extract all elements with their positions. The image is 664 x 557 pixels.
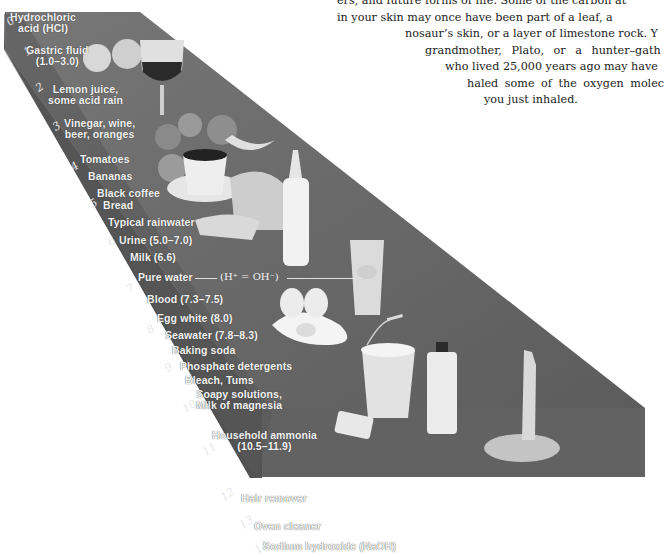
label-urine: Urine (5.0–7.0) (119, 235, 192, 246)
label-phosphate-detergents: Phosphate detergents (180, 361, 292, 372)
body-text-line: grandmother, Plato, or a hunter–gath (311, 43, 651, 60)
label-baking-soda: Baking soda (172, 345, 236, 356)
label-bleach-tums: Bleach, Tums (185, 375, 254, 386)
label-bread: Bread (103, 200, 133, 211)
label-blood: Blood (7.3–7.5) (147, 294, 223, 305)
neutral-line-left (195, 278, 217, 279)
label-vinegar: Vinegar, wine, beer, oranges (64, 118, 135, 140)
body-text-line: nosaur’s skin, or a layer of limestone r… (311, 26, 651, 43)
label-oven-cleaner: Oven cleaner (254, 521, 321, 532)
label-hair-remover: Hair remover (241, 493, 307, 504)
label-typical-rainwater: Typical rainwater (108, 217, 195, 228)
label-soapy-solutions: Soapy solutions, Milk of magnesia (196, 389, 282, 411)
bottle-icon (427, 342, 457, 434)
label-milk: Milk (6.6) (130, 252, 176, 263)
label-seawater: Seawater (7.8–8.3) (165, 330, 258, 341)
neutral-equation: (H⁺ = OH⁻) (220, 271, 279, 282)
body-text-line: you just inhaled. (311, 92, 651, 109)
body-text-line: in your skin may once have been part of … (311, 10, 651, 27)
label-household-ammonia: Household ammonia (10.5–11.9) (212, 430, 317, 452)
label-egg-white: Egg white (8.0) (157, 313, 233, 324)
body-text-line: haled some of the oxygen molec (311, 76, 651, 93)
body-text-line: who lived 25,000 years ago may have (311, 59, 651, 76)
label-sodium-hydroxide: Sodium hydroxide (NaOH) (263, 541, 396, 552)
label-hcl: Hydrochloric acid (HCl) (10, 12, 76, 34)
label-black-coffee: Black coffee (97, 188, 160, 199)
neutral-line-right (287, 278, 362, 279)
label-bananas: Bananas (88, 171, 132, 182)
label-lemon-juice: Lemon juice, some acid rain (48, 84, 123, 106)
label-tomatoes: Tomatoes (80, 154, 130, 165)
label-gastric-fluid: Gastric fluid (1.0–3.0) (26, 45, 89, 67)
label-pure-water: Pure water (138, 272, 193, 283)
orange-icon (112, 39, 142, 69)
ph-number-12: 12 (218, 485, 237, 504)
body-text: ers, and future forms of life. Some of t… (311, 0, 651, 109)
body-text-line: ers, and future forms of life. Some of t… (311, 0, 651, 10)
